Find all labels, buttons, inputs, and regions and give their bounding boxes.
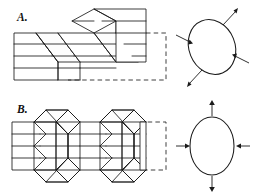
panel-a-label: A. [16,11,28,23]
panel-b-label: B. [16,103,28,115]
figure-root: A. [0,0,256,193]
panel-b-shear-zone-1 [34,110,80,182]
panel-b-right-slab-body [140,122,146,170]
panel-b-shear-zone-2 [100,110,146,182]
structural-geology-figure: A. [0,0,256,193]
